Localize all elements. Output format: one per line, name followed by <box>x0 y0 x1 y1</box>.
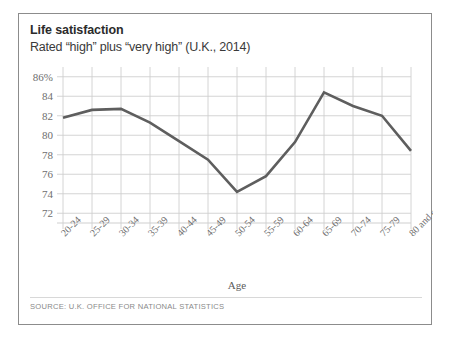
gridlines <box>57 67 411 223</box>
y-tick-label: 86% <box>33 71 53 83</box>
x-axis-title: Age <box>228 279 246 291</box>
x-tick-label: 45-49 <box>204 214 228 238</box>
y-tick-label: 72 <box>42 207 53 219</box>
y-tick-label: 76 <box>42 168 54 180</box>
x-tick-label: 70-74 <box>349 214 373 238</box>
y-axis-tick-labels: 7274767880828486% <box>33 71 54 220</box>
chart-card-root: Life satisfaction Rated “high” plus “ver… <box>0 0 449 348</box>
x-tick-label: 50-54 <box>233 214 257 238</box>
y-tick-label: 74 <box>42 188 54 200</box>
line-chart: 7274767880828486% 20-2425-2930-3435-3940… <box>19 14 433 326</box>
x-tick-label: 20-24 <box>59 214 83 238</box>
source-divider <box>30 297 422 298</box>
x-tick-label: 65-69 <box>320 214 344 238</box>
y-tick-label: 78 <box>42 149 54 161</box>
y-tick-label: 80 <box>42 129 54 141</box>
x-tick-label: 35-39 <box>146 214 170 238</box>
x-tick-label: 75-79 <box>378 214 402 238</box>
y-tick-label: 82 <box>42 110 53 122</box>
x-tick-label: 25-29 <box>88 214 112 238</box>
x-tick-label: 55-59 <box>262 214 286 238</box>
source-note: SOURCE: U.K. OFFICE FOR NATIONAL STATIST… <box>30 302 224 311</box>
plot-area: 7274767880828486% 20-2425-2930-3435-3940… <box>19 14 433 326</box>
x-tick-label: 60-64 <box>291 214 315 238</box>
x-tick-label: 40-44 <box>175 214 199 238</box>
y-tick-label: 84 <box>42 90 54 102</box>
chart-frame: Life satisfaction Rated “high” plus “ver… <box>18 13 432 325</box>
x-axis-tick-labels: 20-2425-2930-3435-3940-4445-4950-5455-59… <box>59 197 433 239</box>
x-tick-label: 30-34 <box>117 214 141 238</box>
